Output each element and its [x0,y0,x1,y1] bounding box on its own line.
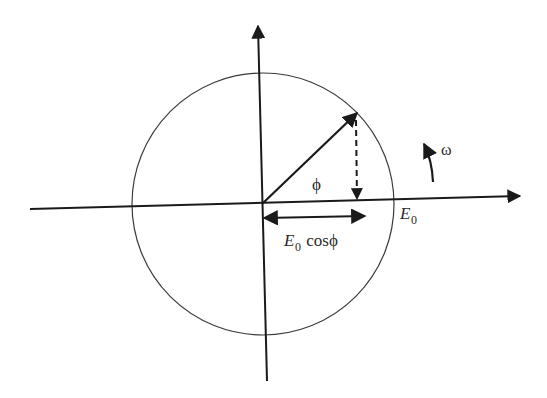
phasor-vector [262,113,357,204]
phasor-diagram: ϕ ω E 0 E 0 cosϕ [0,0,547,398]
horizontal-axis [30,196,520,209]
svg-text:E: E [399,204,411,223]
omega-label: ω [441,141,452,158]
amplitude-label: E 0 [399,204,417,227]
projection-dashed-line [356,120,357,199]
projection-label: E 0 cosϕ [283,231,338,254]
svg-text:cosϕ: cosϕ [302,231,338,250]
rotation-arrow-icon [424,144,433,182]
svg-text:0: 0 [411,213,417,227]
angle-label: ϕ [312,175,321,194]
svg-text:E: E [283,231,295,250]
projection-double-arrow [264,216,365,218]
svg-text:0: 0 [295,240,301,254]
